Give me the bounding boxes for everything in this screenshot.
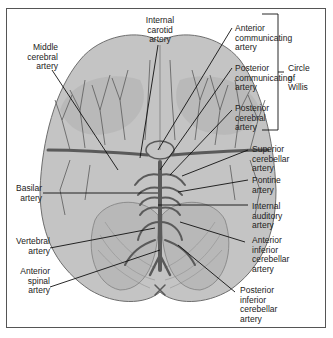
label-vertebral-artery: Vertebralartery	[2, 237, 50, 256]
label-circle-of-willis: CircleofWillis	[288, 64, 318, 93]
label-internal-auditory-artery: Internalauditoryartery	[252, 202, 312, 231]
label-pontine-artery: Pontineartery	[252, 176, 312, 195]
label-superior-cerebellar-artery: Superiorcerebellarartery	[252, 145, 312, 174]
label-anterior-communicating-artery: Anteriorcommunicatingartery	[235, 24, 305, 53]
label-middle-cerebral-artery: Middlecerebralartery	[14, 43, 58, 72]
label-basilar-artery: Basilarartery	[2, 184, 42, 203]
label-posterior-cerebral-artery: Posteriorcerebralartery	[235, 104, 285, 133]
label-posterior-inferior-cerebellar-artery: Posteriorinferiorcerebellarartery	[240, 286, 300, 324]
label-anterior-spinal-artery: Anteriorspinalartery	[2, 267, 50, 296]
label-anterior-inferior-cerebellar-artery: Anteriorinferiorcerebellarartery	[252, 236, 312, 274]
label-internal-carotid-artery: Internalcarotidartery	[140, 16, 180, 45]
